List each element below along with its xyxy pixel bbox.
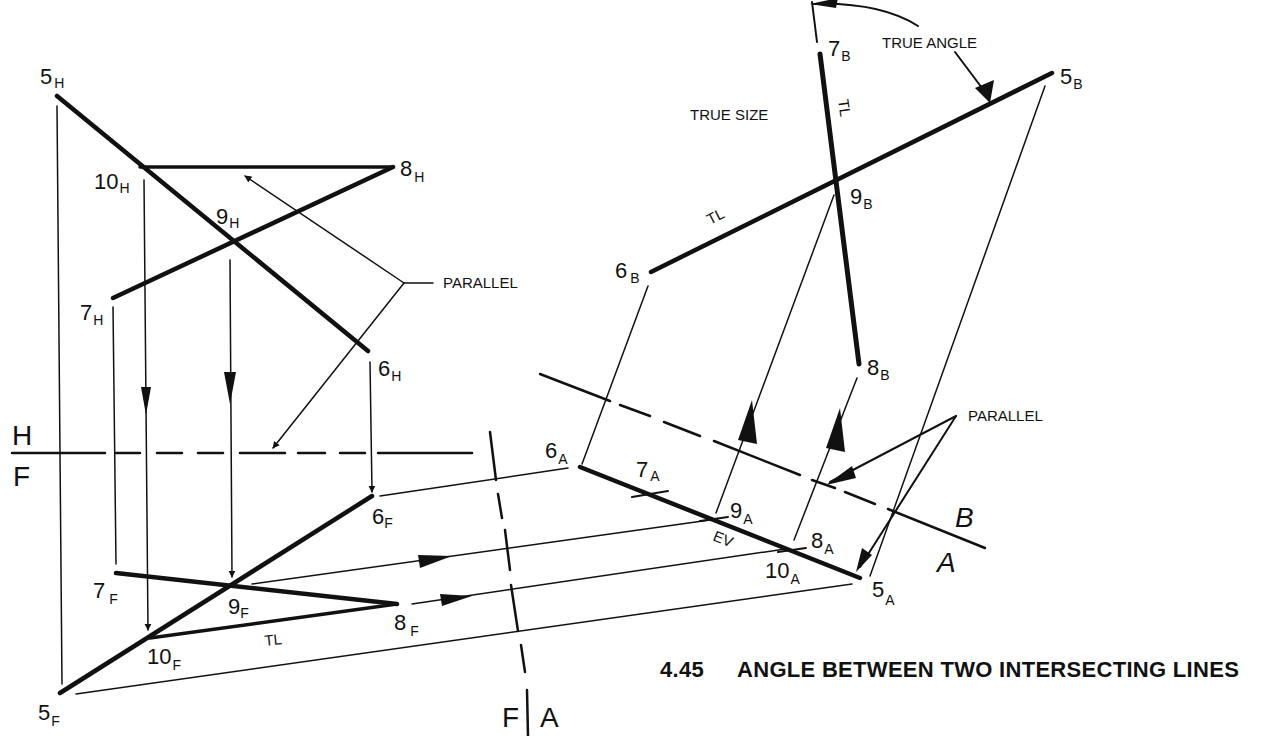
svg-text:9F: 9F bbox=[228, 594, 249, 621]
line-8h-7h bbox=[113, 167, 393, 298]
svg-text:8F: 8F bbox=[394, 610, 419, 639]
fold-line-ab bbox=[540, 374, 985, 548]
parallel-label-right: PARALLEL bbox=[968, 407, 1043, 424]
svg-text:10F: 10F bbox=[147, 644, 181, 673]
svg-text:9H: 9H bbox=[216, 204, 239, 231]
svg-text:8B: 8B bbox=[867, 355, 890, 383]
fold-hf-bottom: F bbox=[13, 461, 30, 492]
svg-text:6A: 6A bbox=[545, 438, 568, 467]
point-labels-horizontal: 5H 10H 8H 9H 7H 6H bbox=[40, 64, 424, 384]
svg-text:7H: 7H bbox=[80, 300, 103, 328]
parallel-leader-left bbox=[245, 176, 433, 448]
fold-fa-left: F bbox=[502, 702, 519, 733]
true-angle-arc bbox=[814, 4, 918, 26]
caption-number: 4.45 bbox=[660, 657, 704, 682]
projectors-ab bbox=[582, 86, 1045, 576]
true-size-label: TRUE SIZE bbox=[690, 106, 768, 123]
parallel-label-left: PARALLEL bbox=[443, 274, 518, 291]
point-labels-front: 6F 7F 9F 8F 10F 5F bbox=[38, 504, 419, 729]
arrowhead-9 bbox=[224, 372, 236, 404]
svg-text:10A: 10A bbox=[765, 558, 800, 587]
parallel-leader-right bbox=[830, 416, 956, 567]
line-7f-8f bbox=[116, 573, 397, 604]
svg-text:6H: 6H bbox=[378, 356, 401, 384]
descriptive-geometry-diagram: 5H 10H 8H 9H 7H 6H 6F 7F 9F 8F 10F 5F 6A… bbox=[0, 0, 1266, 736]
svg-text:5H: 5H bbox=[40, 64, 64, 91]
svg-text:9A: 9A bbox=[730, 498, 753, 527]
line-5h-6h bbox=[57, 96, 368, 351]
arrowhead-10 bbox=[141, 387, 151, 415]
line-7b-extension bbox=[812, 2, 817, 42]
svg-text:10H: 10H bbox=[94, 169, 130, 196]
fold-ab-top: B bbox=[955, 502, 974, 533]
auxiliary-view-a bbox=[580, 467, 860, 578]
true-angle-arrowhead bbox=[810, 0, 838, 8]
svg-text:5B: 5B bbox=[1060, 64, 1083, 92]
line-6a-5a-edge-view bbox=[580, 467, 860, 578]
arrowhead-f-9 bbox=[418, 555, 452, 568]
arrowhead-a-9 bbox=[738, 400, 757, 444]
svg-text:9B: 9B bbox=[850, 184, 873, 212]
tl-label-line-56b: TL bbox=[704, 205, 727, 228]
svg-text:6B: 6B bbox=[615, 258, 640, 286]
figure-caption: 4.45 ANGLE BETWEEN TWO INTERSECTING LINE… bbox=[660, 657, 1239, 682]
svg-text:7A: 7A bbox=[636, 457, 660, 484]
true-angle-label: TRUE ANGLE bbox=[882, 34, 977, 51]
tl-label-front: TL bbox=[264, 630, 283, 649]
svg-text:5F: 5F bbox=[38, 700, 60, 729]
point-labels-aux-b: 7B 5B 9B 6B 8B bbox=[615, 36, 1083, 383]
fold-hf-top: H bbox=[12, 420, 32, 451]
annotations: TRUE ANGLE TRUE SIZE PARALLEL PARALLEL T… bbox=[264, 34, 1043, 649]
ev-label: EV bbox=[711, 527, 736, 550]
auxiliary-view-b bbox=[651, 2, 1052, 364]
fold-line-fa bbox=[490, 432, 528, 736]
arrowhead-f-8 bbox=[440, 594, 472, 606]
fold-ab-bottom: A bbox=[935, 547, 956, 578]
svg-text:7B: 7B bbox=[828, 36, 851, 64]
svg-text:6F: 6F bbox=[372, 504, 393, 531]
parallel-arrowhead-right-1 bbox=[826, 466, 856, 485]
svg-text:7F: 7F bbox=[93, 578, 118, 607]
svg-text:5A: 5A bbox=[872, 577, 895, 608]
svg-text:8A: 8A bbox=[811, 528, 834, 557]
caption-title: ANGLE BETWEEN TWO INTERSECTING LINES bbox=[737, 657, 1239, 682]
fold-fa-right: A bbox=[540, 702, 559, 733]
tl-label-line-78b: TL bbox=[835, 98, 854, 118]
svg-text:8H: 8H bbox=[400, 156, 424, 185]
